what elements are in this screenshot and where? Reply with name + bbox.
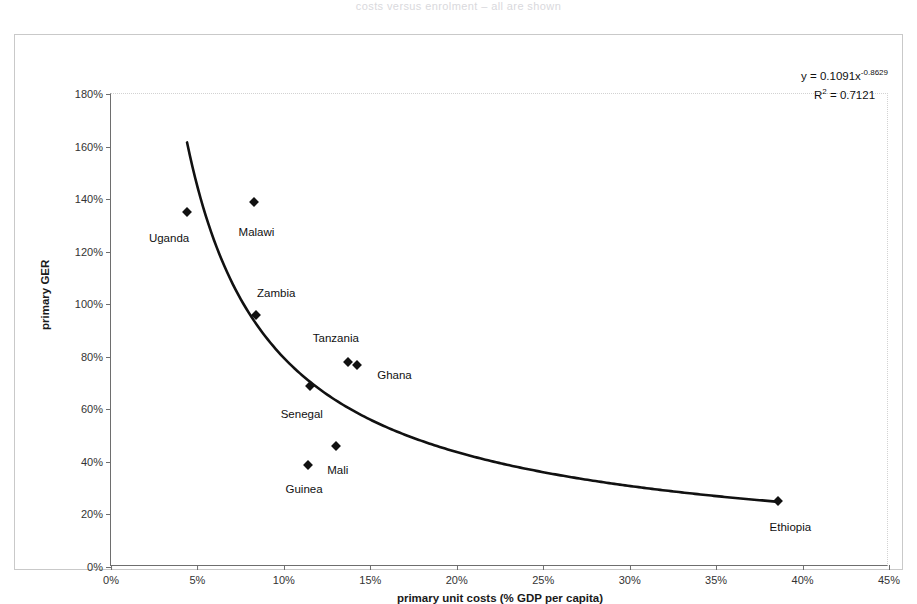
point-label-malawi: Malawi: [239, 226, 275, 238]
x-tick-label: 0%: [103, 574, 119, 586]
equation-line: y = 0.1091x-0.8629: [801, 65, 888, 84]
chart-frame: primary GER 0%20%40%60%80%100%120%140%16…: [14, 34, 903, 570]
r-squared-value: = 0.7121: [827, 89, 875, 101]
trendline-equation: y = 0.1091x-0.8629 R2 = 0.7121: [801, 65, 888, 103]
x-axis-title: primary unit costs (% GDP per capita): [111, 592, 889, 604]
x-tick-label: 45%: [878, 574, 900, 586]
x-tick-label: 35%: [705, 574, 727, 586]
y-tick-label: 40%: [81, 456, 111, 468]
point-label-tanzania: Tanzania: [313, 332, 359, 344]
point-label-ethiopia: Ethiopia: [770, 521, 812, 533]
y-tick-label: 0%: [87, 561, 111, 573]
point-label-mali: Mali: [327, 464, 348, 476]
y-tick-label: 80%: [81, 351, 111, 363]
y-tick-label: 180%: [75, 88, 111, 100]
point-label-uganda: Uganda: [149, 232, 189, 244]
y-tick-label: 160%: [75, 141, 111, 153]
y-tick-label: 100%: [75, 298, 111, 310]
x-tick-label: 15%: [359, 574, 381, 586]
r-squared-line: R2 = 0.7121: [801, 84, 888, 103]
y-tick-label: 140%: [75, 193, 111, 205]
y-tick-label: 60%: [81, 403, 111, 415]
x-tick-label: 40%: [792, 574, 814, 586]
equation-exponent: -0.8629: [861, 68, 888, 77]
page-title: costs versus enrolment – all are shown: [0, 0, 917, 12]
x-tick-label: 5%: [189, 574, 205, 586]
point-label-guinea: Guinea: [286, 483, 323, 495]
x-tick-label: 25%: [532, 574, 554, 586]
x-tick-label: 30%: [619, 574, 641, 586]
point-label-ghana: Ghana: [377, 369, 412, 381]
x-tick-label: 20%: [446, 574, 468, 586]
y-axis-title: primary GER: [39, 260, 51, 330]
point-label-zambia: Zambia: [257, 287, 295, 299]
equation-text: y = 0.1091x: [801, 70, 861, 82]
y-tick-label: 120%: [75, 246, 111, 258]
y-tick-label: 20%: [81, 508, 111, 520]
x-tick-label: 10%: [273, 574, 295, 586]
plot-area: 0%20%40%60%80%100%120%140%160%180% 0%5%1…: [110, 93, 888, 566]
trendline-curve: [111, 94, 889, 567]
point-label-senegal: Senegal: [281, 408, 323, 420]
